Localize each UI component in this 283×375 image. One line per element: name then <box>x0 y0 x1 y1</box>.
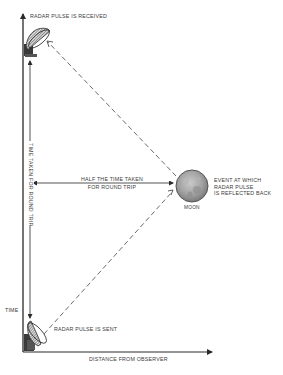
moon-icon <box>176 170 208 202</box>
round-trip-label: TIME TAKEN FOR ROUND TRIP <box>28 141 34 225</box>
event-label-line2: RADAR PULSE <box>214 184 271 191</box>
radar-dish-icon <box>24 320 49 351</box>
half-time-label-line1: HALF THE TIME TAKEN <box>62 176 162 183</box>
radar-diagram: RADAR PULSE IS RECEIVED TIME TAKEN FOR R… <box>0 0 283 375</box>
time-axis-label: TIME <box>5 307 18 314</box>
event-label-line3: IS REFLECTED BACK <box>214 190 271 197</box>
event-label-line1: EVENT AT WHICH <box>214 177 271 184</box>
pulse-received-label: RADAR PULSE IS RECEIVED <box>30 13 107 20</box>
distance-axis-label: DISTANCE FROM OBSERVER <box>89 356 168 363</box>
half-time-label-line2: FOR ROUND TRIP <box>62 184 162 191</box>
outgoing-pulse-path <box>44 190 173 334</box>
half-time-label: HALF THE TIME TAKEN FOR ROUND TRIP <box>62 176 162 190</box>
moon-label: MOON <box>184 205 200 211</box>
reflection-event-label: EVENT AT WHICH RADAR PULSE IS REFLECTED … <box>214 177 271 197</box>
radar-dish-icon <box>24 27 52 57</box>
pulse-sent-label: RADAR PULSE IS SENT <box>54 326 117 333</box>
return-pulse-path <box>47 41 176 176</box>
